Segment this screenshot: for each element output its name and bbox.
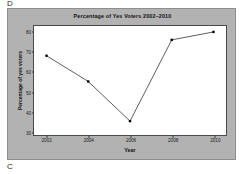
x-tick-label: 2004 bbox=[84, 138, 94, 143]
y-tick-mark bbox=[32, 132, 35, 133]
data-point bbox=[171, 39, 173, 41]
y-tick-label: 60 bbox=[26, 70, 31, 75]
figure-label-top: D bbox=[7, 0, 13, 8]
x-tick-mark bbox=[173, 135, 174, 138]
x-tick-mark bbox=[215, 135, 216, 138]
y-tick-mark bbox=[32, 112, 35, 113]
data-point bbox=[129, 120, 131, 122]
y-tick-label: 30 bbox=[26, 130, 31, 135]
x-tick-label: 2006 bbox=[126, 138, 136, 143]
data-point bbox=[212, 31, 214, 33]
figure-label-bottom: C bbox=[7, 163, 13, 171]
y-tick-mark bbox=[32, 72, 35, 73]
plot-area: 304050607080 20022004200620082010 bbox=[33, 25, 227, 136]
x-tick-label: 2010 bbox=[210, 138, 220, 143]
data-point bbox=[45, 55, 47, 57]
x-axis-label: Year bbox=[33, 147, 227, 153]
y-tick-mark bbox=[32, 52, 35, 53]
x-tick-label: 2002 bbox=[42, 138, 52, 143]
x-tick-label: 2008 bbox=[168, 138, 178, 143]
y-tick-label: 70 bbox=[26, 50, 31, 55]
chart-title: Percentage of Yes Voters 2002–2010 bbox=[8, 13, 237, 20]
y-tick-label: 50 bbox=[26, 90, 31, 95]
y-axis-label: Percentage of yes voters bbox=[16, 25, 24, 136]
y-tick-label: 40 bbox=[26, 110, 31, 115]
chart-figure-panel: Percentage of Yes Voters 2002–2010 30405… bbox=[7, 8, 236, 160]
x-tick-mark bbox=[131, 135, 132, 138]
data-point bbox=[87, 80, 89, 82]
y-tick-label: 80 bbox=[26, 30, 31, 35]
x-tick-mark bbox=[46, 135, 47, 138]
data-series-line bbox=[47, 32, 214, 121]
data-point-markers bbox=[45, 31, 214, 123]
y-tick-mark bbox=[32, 92, 35, 93]
line-chart-svg bbox=[34, 26, 226, 135]
screenshot-root: D Percentage of Yes Voters 2002–2010 304… bbox=[0, 0, 244, 174]
y-tick-mark bbox=[32, 32, 35, 33]
x-tick-mark bbox=[88, 135, 89, 138]
